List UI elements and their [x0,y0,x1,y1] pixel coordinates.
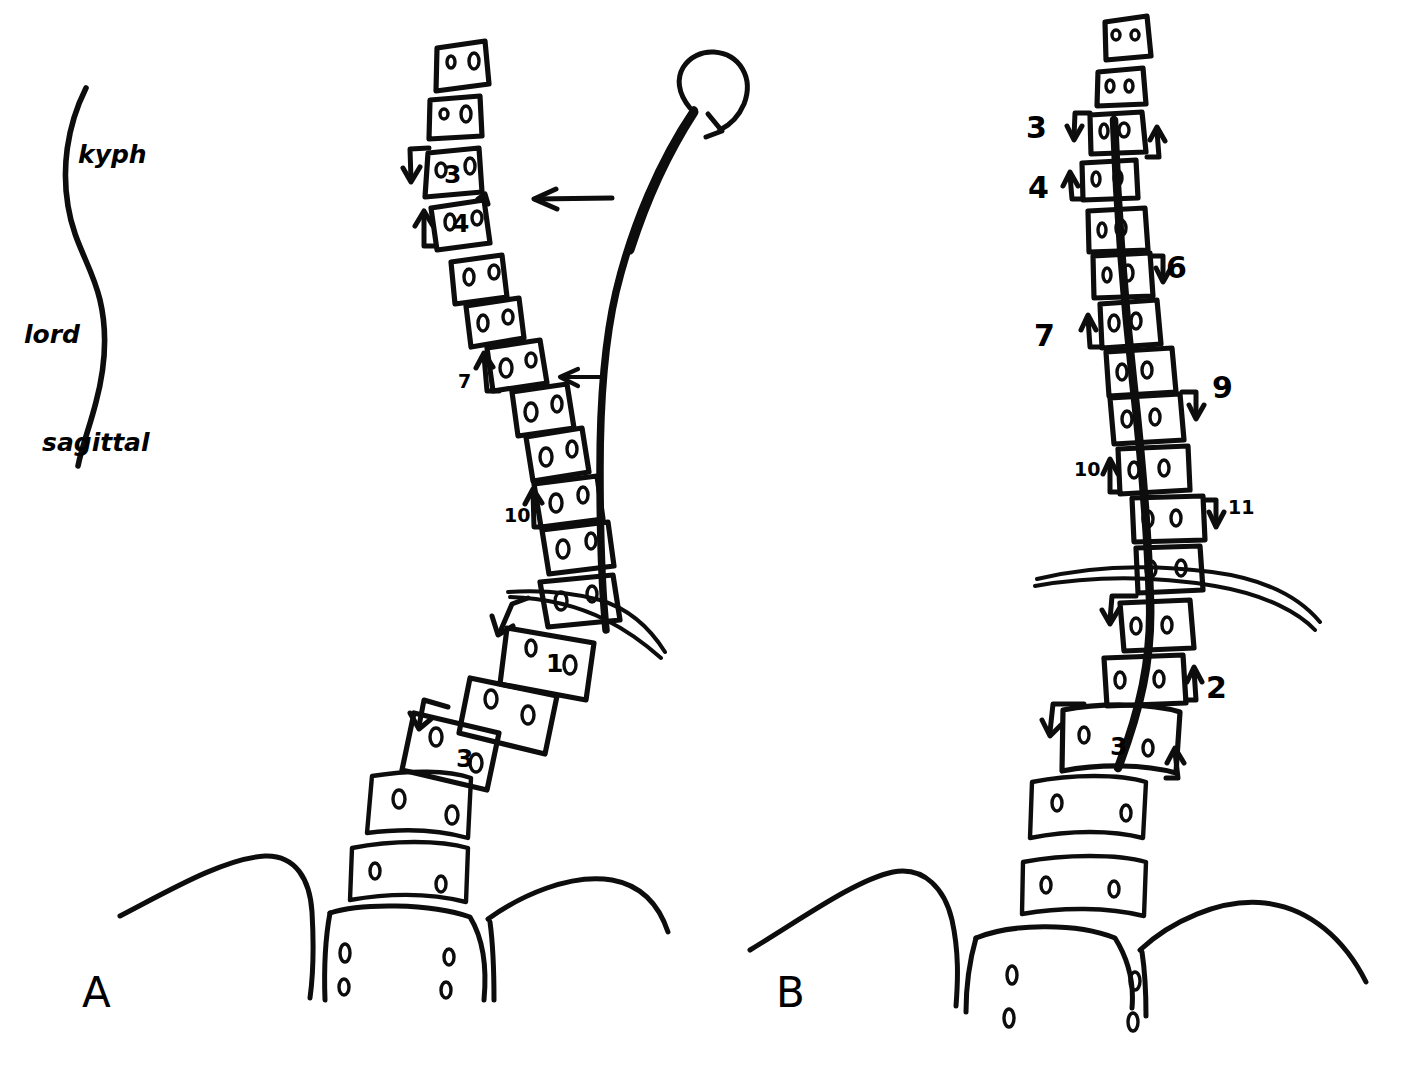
annotation-b-3: 3 [1026,110,1047,145]
annotation-b-11: 11 [1228,496,1254,518]
vertebra-number-b-l3: 3 [1110,732,1127,761]
vertebra-body [487,340,547,391]
vertebra-body [429,96,482,139]
vertebra-body [1030,776,1146,838]
vertebra-body [1110,394,1184,444]
label-lordosis: lord [24,320,80,349]
panel-label-b: B [776,968,805,1017]
up-arrow-vertebra-7 [476,353,499,391]
pelvis-b [750,871,1366,1031]
annotation-a-10: 10 [504,504,530,526]
vertebra-body [526,428,589,481]
panel-b-group [750,16,1366,1031]
direction-arrow-upper [534,189,612,209]
panel-label-a: A [82,968,111,1017]
annotation-b-10: 10 [1074,458,1100,480]
label-kyphosis: kyph [78,140,147,169]
annotation-b-7: 7 [1034,318,1055,353]
vertebra-body [451,255,507,304]
vertebra-body [1120,600,1194,651]
up-arrow-level-3-right [1147,127,1165,157]
vertebra-number-a-4: 4 [452,209,469,238]
vertebra-body [466,298,524,347]
pelvis-a [120,856,668,1000]
annotation-b-6: 6 [1166,250,1187,285]
vertebra-body [436,41,489,91]
vertebra-body [1097,68,1146,106]
panel-a-group [120,41,747,1000]
up-arrow-level-4 [1063,172,1082,199]
down-arrow-level-9 [1182,392,1204,419]
vertebra-body [1105,16,1151,60]
vertebra-number-a-l3: 3 [456,744,473,773]
vertebra-body [1106,348,1176,396]
annotation-b-9: 9 [1212,370,1233,405]
vertebra-number-a-3: 3 [444,160,461,189]
vertebra-body [1082,160,1138,200]
figure-canvas: kyph lord sagittal 3 4 1 3 7 10 3 4 6 7 … [0,0,1404,1070]
label-sagittal-plane: sagittal [42,428,150,457]
down-arrow-level-11 [1206,500,1224,527]
annotation-b-4: 4 [1028,170,1049,205]
vertebra-body [1022,856,1146,916]
up-arrow-level-2 [1186,667,1202,700]
vertebra-body [1118,446,1190,494]
spine-diagram-svg [0,0,1404,1070]
annotation-a-7: 7 [458,370,471,392]
annotation-b-2: 2 [1206,670,1227,705]
down-arrow-level-3 [1067,113,1090,140]
vertebra-body [350,842,468,902]
vertebra-body [534,476,603,527]
vertebra-number-a-l1: 1 [546,649,563,678]
